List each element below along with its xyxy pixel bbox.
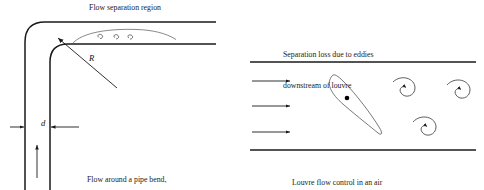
downstream-eddies [393,78,470,135]
separation-loss-caption: Separation loss due to eddies downstream… [283,30,374,112]
flow-separation-region-label: Flow separation region [55,3,195,13]
radius-arrow [58,38,117,88]
radius-label: R [89,53,94,63]
louvre-caption-line1: Louvre flow control in an air [292,178,382,188]
diameter-label: d [41,118,45,128]
separation-eddies [98,34,133,39]
figure-vector-canvas [0,0,484,190]
separation-loss-caption-line1: Separation loss due to eddies [283,50,374,60]
separation-bubble [72,29,176,44]
separation-loss-caption-line2: downstream of louvre [283,81,374,91]
flow-separation-figure: Flow separation region R d Flow around a… [0,0,484,190]
pipe-bend-caption: Flow around a pipe bend, separation depe… [87,155,185,190]
louvre-caption: Louvre flow control in an air distributi… [292,158,382,190]
pipe-bend-caption-line1: Flow around a pipe bend, [87,175,185,185]
